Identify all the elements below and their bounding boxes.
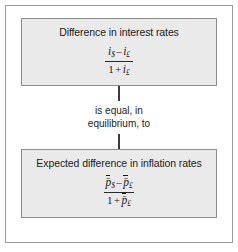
interest-rates-box: Difference in interest rates i$–i£ 1+i£ [21,18,217,86]
fraction-numerator: i$–i£ [105,45,133,61]
inflation-denominator-one: 1 [107,194,113,206]
equilibrium-connector: is equal, in equilibrium, to [21,86,217,149]
inflation-rates-box: Expected difference in inflation rates p… [21,149,217,217]
denominator-one: 1 [108,63,114,75]
numerator-operator: – [115,46,123,57]
denominator-variable: i [123,63,126,75]
interest-rates-formula: i$–i£ 1+i£ [26,45,212,77]
numerator-left-variable: i [108,45,111,57]
inflation-rate-fraction: p̄$–p̄£ 1+p̄£ [102,176,135,208]
fraction-denominator: 1+i£ [105,61,132,78]
connector-line-top [118,86,120,101]
connector-label: is equal, in equilibrium, to [88,101,150,134]
inflation-numerator-right-variable: p̄ [123,176,129,188]
interest-rates-box-title: Difference in interest rates [26,26,212,39]
inflation-rates-formula: p̄$–p̄£ 1+p̄£ [26,176,212,208]
numerator-right-variable: i [123,45,126,57]
connector-label-line2: equilibrium, to [88,118,150,131]
numerator-right-subscript: £ [126,50,130,59]
diagram-stack: Difference in interest rates i$–i£ 1+i£ … [21,18,217,218]
inflation-denominator-subscript: £ [127,199,131,208]
interest-rate-fraction: i$–i£ 1+i£ [105,45,133,77]
inflation-numerator-operator: – [115,177,123,188]
denominator-operator: + [114,64,123,75]
inflation-denominator: 1+p̄£ [104,192,134,209]
connector-label-line1: is equal, in [88,105,150,118]
inflation-rates-box-title: Expected difference in inflation rates [26,157,212,170]
inflation-numerator-left-variable: p̄ [105,176,111,188]
parity-diagram: Difference in interest rates i$–i£ 1+i£ … [0,0,238,252]
denominator-subscript: £ [126,68,130,77]
inflation-denominator-variable: p̄ [121,194,127,206]
connector-line-bottom [118,134,120,149]
inflation-numerator-right-subscript: £ [129,182,133,191]
inflation-numerator: p̄$–p̄£ [102,176,135,192]
